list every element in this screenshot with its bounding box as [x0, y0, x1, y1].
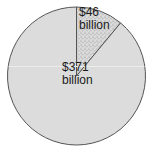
slice-label-small-unit: billion — [79, 19, 110, 32]
slice-label-large-unit: billion — [62, 74, 93, 87]
slice-label-small: $46 billion — [79, 6, 110, 32]
slice-label-large: $371 billion — [62, 61, 93, 87]
